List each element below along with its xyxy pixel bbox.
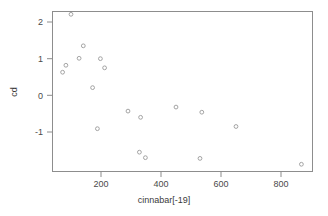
data-points-layer	[61, 12, 304, 166]
x-tick-label: 400	[153, 179, 168, 189]
y-tick-label: 0	[38, 91, 43, 101]
data-point	[103, 66, 107, 70]
data-point	[61, 70, 65, 74]
y-tick-label: 2	[38, 17, 43, 27]
data-point	[91, 86, 95, 90]
plot-canvas: 2 1 0 -1 200 400 600 800 cinnabar[-19] c…	[0, 0, 328, 216]
x-tick-label: 800	[273, 179, 288, 189]
data-point	[234, 125, 238, 129]
data-point	[77, 56, 81, 60]
data-point	[144, 156, 148, 160]
x-axis-title: cinnabar[-19]	[138, 195, 191, 205]
x-axis-ticks: 200 400 600 800	[93, 172, 288, 190]
data-point	[126, 109, 130, 113]
y-axis-title: cd	[9, 87, 19, 97]
data-point	[300, 162, 304, 166]
scatter-plot-figure: 2 1 0 -1 200 400 600 800 cinnabar[-19] c…	[0, 0, 328, 216]
data-point	[81, 44, 85, 48]
data-point	[174, 105, 178, 109]
data-point	[138, 150, 142, 154]
plot-frame	[53, 12, 313, 172]
y-tick-label: -1	[35, 127, 43, 137]
x-tick-label: 600	[213, 179, 228, 189]
data-point	[200, 110, 204, 114]
y-tick-label: 1	[38, 54, 43, 64]
data-point	[139, 115, 143, 119]
data-point	[96, 127, 100, 131]
data-point	[64, 63, 68, 67]
x-tick-label: 200	[93, 179, 108, 189]
data-point	[69, 12, 73, 16]
y-axis-ticks: 2 1 0 -1	[35, 17, 53, 137]
data-point	[198, 157, 202, 161]
data-point	[99, 57, 103, 61]
